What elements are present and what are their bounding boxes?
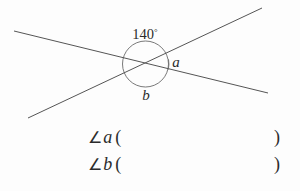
angle-140-value: 140 [132, 26, 154, 42]
label-a: a [172, 54, 180, 70]
label-b: b [142, 87, 150, 103]
answer-variable-b: b [102, 154, 114, 174]
close-paren-b: ) [274, 151, 280, 178]
answer-blanks-group: ∠a() ∠b() [0, 124, 300, 178]
angle-symbol-icon: ∠ [88, 128, 102, 147]
degree-symbol: ° [154, 27, 158, 37]
answer-row-b: ∠b() [0, 151, 300, 178]
close-paren-a: ) [274, 124, 280, 151]
answer-variable-a: a [102, 127, 114, 147]
open-paren-b: ( [114, 154, 121, 174]
angle-circle-marker [123, 41, 169, 87]
angle-symbol-icon: ∠ [88, 155, 102, 174]
angle-140-label: 140° [132, 26, 158, 42]
open-paren-a: ( [114, 127, 121, 147]
worksheet-page: 140° a b ∠a() ∠b() [0, 0, 300, 191]
answer-row-a: ∠a() [0, 124, 300, 151]
